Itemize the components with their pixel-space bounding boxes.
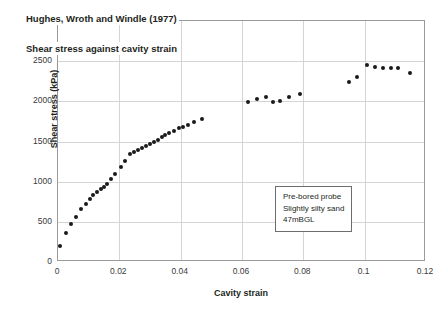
y-tick-label: 0: [22, 256, 52, 266]
data-point: [389, 66, 393, 70]
data-point: [58, 244, 62, 248]
data-point: [156, 138, 160, 142]
data-point: [381, 66, 385, 70]
gridline-horizontal: [58, 222, 424, 223]
gridline-horizontal: [58, 101, 424, 102]
gridline-vertical: [119, 21, 120, 260]
data-point: [69, 222, 73, 226]
data-point: [347, 80, 351, 84]
gridline-vertical: [365, 21, 366, 260]
data-point: [119, 165, 123, 169]
gridline-vertical: [181, 21, 182, 260]
data-point: [186, 123, 190, 127]
chart-title: Hughes, Wroth and Windle (1977): [24, 12, 179, 25]
data-point: [172, 129, 176, 133]
y-tick-label: 2000: [22, 95, 52, 105]
gridline-vertical: [242, 21, 243, 260]
y-tick-label: 1000: [22, 176, 52, 186]
y-tick-label: 500: [22, 216, 52, 226]
data-point: [105, 182, 109, 186]
data-point: [192, 120, 196, 124]
x-axis-title: Cavity strain: [57, 288, 425, 298]
x-tick-label: 0.06: [223, 266, 259, 276]
x-tick-label: 0.04: [162, 266, 198, 276]
chart-figure: 050010001500200025003000 00.020.040.060.…: [0, 0, 445, 309]
data-point: [123, 159, 127, 163]
y-axis-title: Shear stress (kPa): [49, 49, 59, 169]
data-point: [109, 177, 113, 181]
chart-subtitle: Shear stress against cavity strain: [24, 42, 179, 55]
x-tick-label: 0.02: [100, 266, 136, 276]
annotation-line-2: Slightly silty sand: [283, 203, 344, 215]
data-point: [298, 92, 302, 96]
gridline-horizontal: [58, 61, 424, 62]
data-point: [264, 95, 268, 99]
data-point: [91, 193, 95, 197]
annotation-line-1: Pre-bored probe: [283, 191, 344, 203]
data-point: [355, 75, 359, 79]
data-point: [396, 66, 400, 70]
y-tick-label: 2500: [22, 55, 52, 65]
data-point: [79, 207, 83, 211]
data-point: [408, 71, 412, 75]
data-point: [271, 100, 275, 104]
data-point: [74, 215, 78, 219]
data-point: [278, 99, 282, 103]
x-tick-label: 0.08: [284, 266, 320, 276]
data-point: [287, 95, 291, 99]
data-point: [64, 231, 68, 235]
data-point: [365, 63, 369, 67]
annotation-box: Pre-bored probe Slightly silty sand 47mB…: [275, 186, 352, 232]
data-point: [95, 190, 99, 194]
data-point: [181, 125, 185, 129]
data-point: [373, 65, 377, 69]
y-tick-label: 1500: [22, 136, 52, 146]
plot-area: [57, 20, 425, 261]
data-point: [88, 197, 92, 201]
x-tick-label: 0.12: [407, 266, 443, 276]
data-point: [113, 172, 117, 176]
data-point: [177, 126, 181, 130]
gridline-horizontal: [58, 142, 424, 143]
data-point: [84, 202, 88, 206]
gridline-horizontal: [58, 182, 424, 183]
x-tick-label: 0.1: [346, 266, 382, 276]
x-tick-label: 0: [39, 266, 75, 276]
data-point: [167, 131, 171, 135]
annotation-line-3: 47mBGL: [283, 214, 344, 226]
data-point: [200, 117, 204, 121]
data-point: [246, 100, 250, 104]
